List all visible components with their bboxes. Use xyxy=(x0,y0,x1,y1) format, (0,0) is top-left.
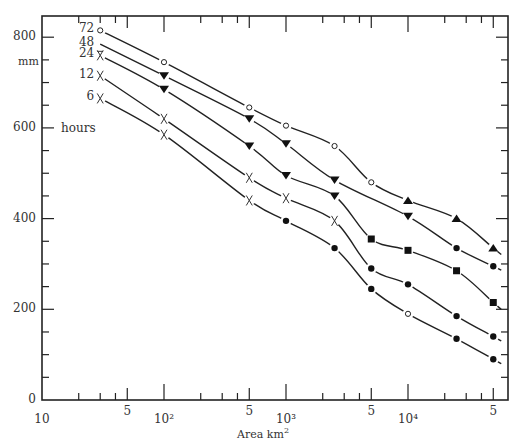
y-tick-label: 400 xyxy=(2,211,36,225)
filled-circle-marker xyxy=(368,286,374,292)
x-tick-label: 5 xyxy=(112,404,142,418)
filled-circle-marker xyxy=(331,245,337,251)
x-tick-label: 10³ xyxy=(271,412,301,426)
filled-circle-marker xyxy=(368,265,374,271)
square-marker xyxy=(453,267,460,274)
y-unit-label: mm xyxy=(18,55,39,68)
open-circle-marker xyxy=(405,311,410,316)
filled-circle-marker xyxy=(490,356,496,362)
y-tick-label: 200 xyxy=(2,301,36,315)
x-tick-label: 10⁴ xyxy=(393,412,423,426)
y-tick-label: 800 xyxy=(2,29,36,43)
series-label-72h: 72 xyxy=(70,21,94,35)
series-label-12h: 12 xyxy=(70,67,94,81)
x-tick-label: 10 xyxy=(27,412,57,426)
x-tick-label: 5 xyxy=(234,404,264,418)
filled-circle-marker xyxy=(283,218,289,224)
filled-circle-marker xyxy=(490,263,496,269)
open-circle-marker xyxy=(98,28,103,33)
y-tick-label: 600 xyxy=(2,120,36,134)
plot-frame xyxy=(42,16,508,400)
x-tick-label: 10² xyxy=(149,412,179,426)
square-marker xyxy=(490,299,497,306)
filled-circle-marker xyxy=(490,333,496,339)
filled-circle-marker xyxy=(453,336,459,342)
x-axis-title: Area km2 xyxy=(237,426,289,441)
filled-circle-marker xyxy=(453,245,459,251)
square-marker xyxy=(405,247,412,254)
x-axis-title-text: Area km xyxy=(237,428,284,441)
open-circle-marker xyxy=(369,180,374,185)
square-marker xyxy=(368,236,375,243)
series-label-24h: 24 xyxy=(70,46,94,60)
x-axis-title-sup: 2 xyxy=(284,426,289,435)
filled-circle-marker xyxy=(453,313,459,319)
open-circle-marker xyxy=(332,143,337,148)
x-tick-label: 5 xyxy=(478,404,508,418)
legend-title: hours xyxy=(61,121,96,135)
open-circle-marker xyxy=(283,123,288,128)
open-circle-marker xyxy=(247,105,252,110)
y-tick-label: 0 xyxy=(2,392,36,406)
filled-circle-marker xyxy=(405,281,411,287)
open-circle-marker xyxy=(161,60,166,65)
series-label-6h: 6 xyxy=(70,89,94,103)
x-tick-label: 5 xyxy=(356,404,386,418)
